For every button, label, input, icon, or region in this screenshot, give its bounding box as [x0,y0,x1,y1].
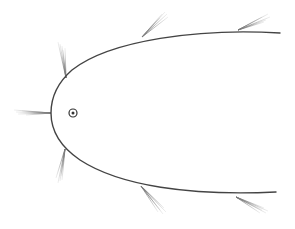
reflector-curve [51,32,280,193]
feather-lower-left [56,149,65,183]
feather-upper-left [58,42,66,78]
feather-left [14,110,51,115]
feather-bottom-middle [141,186,166,214]
feather-top-middle [142,12,168,37]
feather-bottom-right [236,197,268,213]
focus-point [69,109,77,117]
feather-top-right [238,14,270,30]
